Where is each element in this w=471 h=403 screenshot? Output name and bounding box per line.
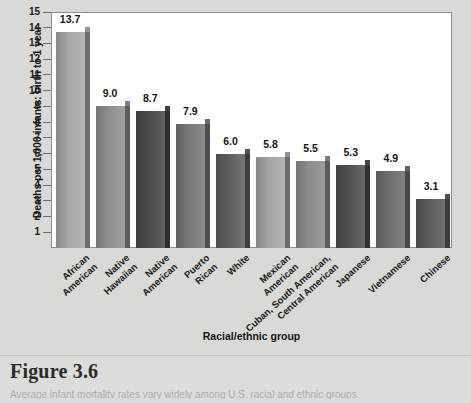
bar-side-face [405,171,410,248]
bar-value-label: 7.9 [183,105,198,117]
y-axis-ticks: 151413121110987654321 [0,12,52,248]
y-axis-tick: 2 [0,211,52,223]
figure-caption-text: Average infant mortality rates vary wide… [10,389,465,399]
y-axis-tick-label: 2 [34,211,40,223]
y-axis-tick-mark [43,137,51,138]
bar: 3.1 [416,199,445,248]
bar-value-label: 6.0 [223,135,238,147]
y-axis-tick-label: 9 [34,100,40,112]
y-axis-tick-mark [43,153,51,154]
y-axis-tick-mark [43,59,51,60]
bar-face [176,124,205,248]
bar-value-label: 5.5 [303,142,318,154]
bar-top-face [405,166,410,171]
y-axis-tick-mark [43,169,51,170]
bars-layer: 13.79.08.77.96.05.85.55.34.93.1 [51,12,452,248]
y-axis-tick-label: 12 [29,53,40,65]
bar-value-label: 3.1 [424,180,439,192]
y-axis-tick: 12 [0,53,52,65]
y-axis-tick-label: 1 [34,226,40,238]
bar-top-face [85,27,90,32]
bar: 7.9 [176,124,205,248]
bar-face [216,154,245,248]
y-axis-tick: 8 [0,116,52,128]
bar: 13.7 [56,32,85,248]
bar-value-label: 8.7 [143,92,158,104]
bar-chart: Deaths per 1,000 infants: birth to 1 yea… [0,0,471,350]
bar-top-face [365,160,370,165]
y-axis-tick-label: 4 [34,179,40,191]
bar-side-face [125,106,130,248]
bar-value-label: 4.9 [384,152,399,164]
bar-top-face [205,119,210,124]
y-axis-tick-label: 14 [29,22,40,34]
y-axis-tick: 11 [0,69,52,81]
bar-side-face [325,161,330,248]
y-axis-tick: 4 [0,179,52,191]
y-axis-tick-mark [43,232,51,233]
y-axis-tick-mark [43,74,51,75]
bar-value-label: 13.7 [60,13,80,25]
bar: 4.9 [376,171,405,248]
figure-caption-block: Figure 3.6 Average infant mortality rate… [0,355,471,403]
y-axis-tick-label: 5 [34,163,40,175]
bar-face [256,157,285,248]
bar: 5.5 [296,161,325,248]
y-axis-tick-mark [43,43,51,44]
y-axis-tick: 13 [0,37,52,49]
y-axis-tick-mark [43,12,51,13]
y-axis-tick-label: 3 [34,195,40,207]
y-axis-tick-mark [43,216,51,217]
y-axis-tick: 15 [0,6,52,18]
bar-top-face [325,156,330,161]
y-axis-tick-mark [43,90,51,91]
y-axis-tick-label: 8 [34,116,40,128]
y-axis-tick-mark [43,106,51,107]
y-axis-tick-label: 13 [29,37,40,49]
bar-side-face [245,154,250,248]
bar-face [336,165,365,248]
bar-side-face [285,157,290,248]
y-axis-tick-label: 11 [29,69,40,81]
y-axis-tick-label: 6 [34,148,40,160]
bar-face [296,161,325,248]
y-axis-tick: 1 [0,226,52,238]
bar-top-face [245,149,250,154]
bar-side-face [445,199,450,248]
bar: 5.8 [256,157,285,248]
x-axis-title: Racial/ethnic group [51,330,452,342]
y-axis-tick: 6 [0,148,52,160]
bar-side-face [365,165,370,248]
bar-top-face [445,194,450,199]
bar-top-face [285,152,290,157]
y-axis-tick-mark [43,27,51,28]
bar: 5.3 [336,165,365,248]
bar-side-face [165,111,170,248]
bar-face [416,199,445,248]
figure-number: Figure 3.6 [10,360,98,383]
bar: 8.7 [136,111,165,248]
y-axis-tick: 3 [0,195,52,207]
y-axis-tick-mark [43,200,51,201]
bar-face [376,171,405,248]
bar-top-face [165,106,170,111]
bar-value-label: 5.3 [343,146,358,158]
y-axis-tick: 9 [0,100,52,112]
y-axis-tick-mark [43,122,51,123]
bar: 6.0 [216,154,245,248]
bar-side-face [205,124,210,248]
bar-face [96,106,125,248]
y-axis-tick: 7 [0,132,52,144]
y-axis-tick-label: 10 [29,85,40,97]
bar-value-label: 5.8 [263,138,278,150]
y-axis-tick-label: 7 [34,132,40,144]
y-axis-tick: 5 [0,163,52,175]
bar-top-face [125,101,130,106]
bar-value-label: 9.0 [103,87,118,99]
bar-face [136,111,165,248]
y-axis-tick-label: 15 [29,6,40,18]
bar: 9.0 [96,106,125,248]
bar-side-face [85,32,90,248]
y-axis-tick: 10 [0,85,52,97]
